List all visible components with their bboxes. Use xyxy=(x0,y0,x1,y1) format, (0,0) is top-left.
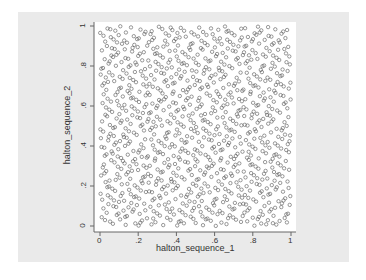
y-tick-label: .6 xyxy=(79,102,88,109)
scatter-plot xyxy=(0,0,366,280)
x-tick-label: 0 xyxy=(97,236,101,245)
x-axis-title: halton_sequence_1 xyxy=(156,243,235,253)
y-tick-label: .2 xyxy=(79,182,88,189)
y-tick-label: .4 xyxy=(79,142,88,149)
x-tick-label: .2 xyxy=(135,236,142,245)
y-tick-label: 1 xyxy=(78,23,87,27)
y-tick-label: .8 xyxy=(79,62,88,69)
y-tick-label: 0 xyxy=(78,223,87,227)
x-tick-label: 1 xyxy=(288,236,292,245)
x-tick-label: .8 xyxy=(250,236,257,245)
y-axis-title: halton_sequence_2 xyxy=(62,86,72,165)
data-points xyxy=(99,25,293,228)
